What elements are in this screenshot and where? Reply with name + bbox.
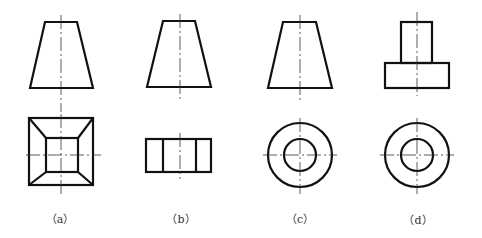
figure-d-top-view (380, 118, 454, 194)
caption-c: （c） (280, 210, 320, 226)
figure-c-top-view (263, 118, 337, 194)
figure-c-front-view (268, 15, 332, 102)
figure-d-front-view (385, 12, 449, 96)
figure-a-top-view (26, 114, 101, 195)
caption-d: （d） (398, 211, 438, 227)
figure-a-front-view (30, 15, 93, 112)
projection-drawing (0, 0, 482, 238)
caption-a: （a） (40, 210, 80, 226)
figure-b-front-view (147, 14, 211, 102)
figure-b-top-view (146, 133, 211, 179)
caption-b: （b） (161, 210, 201, 226)
